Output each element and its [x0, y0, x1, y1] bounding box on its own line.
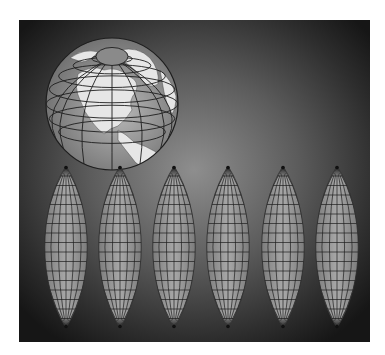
gore-pole-tip	[281, 166, 285, 170]
gore-4	[199, 166, 257, 329]
gore-pole-tip	[281, 325, 285, 329]
gore-pole-tip	[335, 325, 339, 329]
gore-pole-tip	[172, 166, 176, 170]
gore-6	[308, 166, 366, 329]
gore-pole-tip	[335, 166, 339, 170]
gore-pole-tip	[118, 325, 122, 329]
gore-pole-tip	[226, 325, 230, 329]
globe-pole-cap	[96, 47, 128, 65]
gore-pole-tip	[64, 166, 68, 170]
gore-pole-tip	[64, 325, 68, 329]
globe	[46, 38, 178, 170]
gore-pole-tip	[226, 166, 230, 170]
gore-1	[37, 166, 95, 329]
gore-pole-tip	[118, 166, 122, 170]
gore-pole-tip	[172, 325, 176, 329]
illustration-panel	[19, 20, 370, 342]
gore-2	[91, 166, 149, 329]
gore-3	[145, 166, 203, 329]
gore-5	[254, 166, 312, 329]
globe-and-gores-illustration	[19, 20, 370, 342]
gores	[37, 166, 366, 329]
